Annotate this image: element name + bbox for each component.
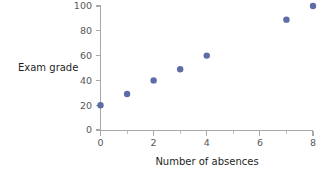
x-axis-group: 0 2 4 6 8 Number of absences [97,131,316,168]
y-tick-label-60: 60 [80,50,92,61]
y-tick-label-100: 100 [74,0,92,11]
y-tick-label-0: 0 [86,124,92,135]
data-points-layer [97,3,316,109]
y-axis-group: 0 20 40 60 80 100 Exam grade [18,0,101,135]
x-axis-ticks [101,131,314,137]
data-point [283,16,289,22]
x-tick-label-4: 4 [204,137,210,148]
scatter-chart: 0 20 40 60 80 100 Exam grade [0,0,323,172]
data-point [124,91,130,97]
data-point [150,77,156,83]
data-point [310,3,316,9]
data-point [177,66,183,72]
x-tick-label-2: 2 [151,137,157,148]
y-axis-title: Exam grade [18,62,78,73]
y-tick-label-80: 80 [80,25,92,36]
x-tick-label-6: 6 [257,137,263,148]
y-axis-ticks [96,6,101,130]
x-axis-title: Number of absences [155,156,258,167]
y-tick-label-40: 40 [80,75,92,86]
x-tick-label-0: 0 [97,137,103,148]
y-tick-label-20: 20 [80,100,92,111]
x-axis-tick-labels: 0 2 4 6 8 [97,137,316,148]
data-point [97,102,103,108]
scatter-plot-svg: 0 20 40 60 80 100 Exam grade [0,0,323,172]
data-point [204,52,210,58]
x-tick-label-8: 8 [310,137,316,148]
